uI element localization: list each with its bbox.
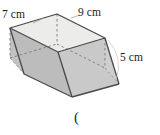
- trailing-parenthesis-mark: (: [74, 110, 79, 125]
- box-figure-container: 7 cm 9 cm 5 cm (: [0, 0, 160, 135]
- dimension-label-width: 7 cm: [2, 9, 25, 21]
- dimension-label-length: 9 cm: [78, 7, 101, 19]
- dimension-label-height: 5 cm: [120, 52, 143, 64]
